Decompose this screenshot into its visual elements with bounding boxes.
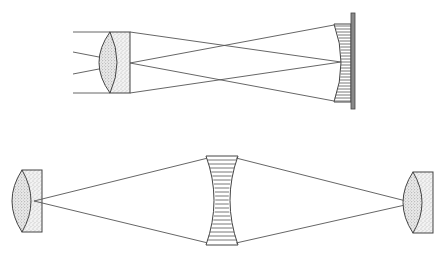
hatched-biconcave-element xyxy=(206,156,238,245)
diverging-rays xyxy=(34,158,208,243)
bottom-panel xyxy=(12,156,433,245)
left-stippled-lens xyxy=(12,170,42,232)
top-panel xyxy=(73,13,355,109)
right-stippled-lens xyxy=(403,172,433,233)
converging-rays xyxy=(236,158,414,243)
crossing-rays xyxy=(130,25,341,101)
stippled-lens xyxy=(99,32,130,93)
mirror-backing-plate xyxy=(351,13,355,109)
optical-diagram xyxy=(0,0,448,260)
